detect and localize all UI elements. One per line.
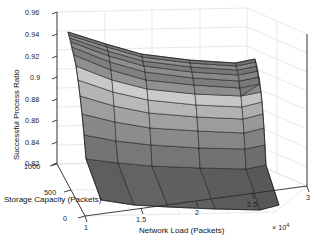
y-axis-title: Storage Capacity (Packets) [4,195,101,204]
surface-plot-svg [0,0,318,241]
ztick-label-0: 0.96 [25,8,39,17]
z-axis-ticks [52,12,57,165]
ztick-label-1: 0.94 [25,30,39,39]
ztick-label-4: 0.88 [25,95,39,104]
ztick-label-5: 0.86 [25,116,39,125]
xtick-label-3: 3 [306,193,310,202]
x-axis-exponent: × 104 [272,222,289,232]
surface-mesh [68,32,279,210]
ytick-label-0: 0 [63,214,67,223]
z-axis-title: Successful Process Ratio [12,69,21,160]
x-axis-exponent-base: × 10 [272,223,286,232]
figure-canvas: 0.96 0.94 0.92 0.9 0.88 0.86 0.84 0.82 1… [0,0,318,241]
ztick-label-3: 0.9 [30,73,40,82]
xtick-label-1: 1 [84,223,88,232]
ytick-label-1000: 1000 [24,162,40,171]
xtick-label-1p5: 1.5 [136,215,146,224]
ztick-label-2: 0.92 [25,52,39,61]
ztick-label-6: 0.84 [25,138,39,147]
x-axis-title: Network Load (Packets) [139,226,224,235]
x-axis-exponent-power: 4 [286,222,289,228]
xtick-label-2: 2 [195,208,199,217]
xtick-label-2p5: 2.5 [247,200,257,209]
